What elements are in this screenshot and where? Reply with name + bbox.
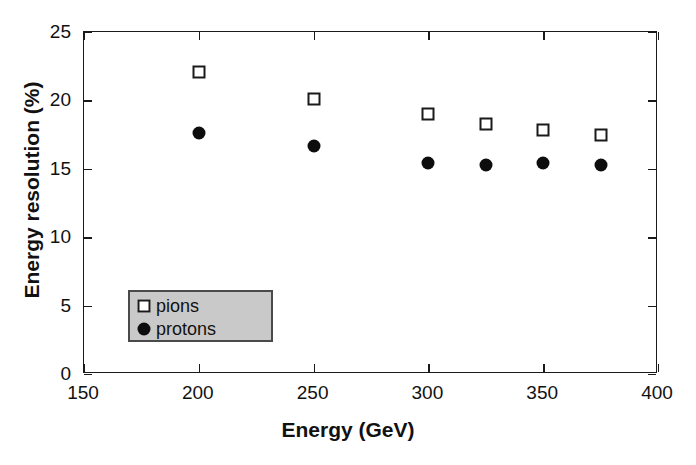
legend-label-protons: protons (156, 320, 216, 338)
x-axis-tick-label: 300 (412, 383, 444, 402)
legend-item-protons: protons (130, 317, 271, 341)
x-axis-tick-label: 250 (297, 383, 329, 402)
filled-circle-marker-icon (138, 323, 151, 336)
data-point-protons (479, 158, 492, 171)
y-axis-tick (648, 374, 656, 375)
y-axis-tick (84, 100, 92, 101)
y-axis-tick (648, 237, 656, 238)
data-point-pions (594, 128, 607, 141)
x-axis-tick (84, 364, 85, 372)
x-axis-tick (658, 364, 659, 372)
legend-swatch-filled-circle-icon (130, 317, 156, 341)
legend-item-pions: pions (130, 294, 271, 318)
y-axis-tick (84, 169, 92, 170)
chart-figure: pions protons Energy (GeV) Energy resolu… (0, 0, 696, 465)
y-axis-tick-label: 5 (23, 295, 71, 314)
x-axis-tick (314, 364, 315, 372)
x-axis-tick (199, 364, 200, 372)
data-point-pions (192, 65, 205, 78)
x-axis-tick (543, 364, 544, 372)
data-point-protons (594, 159, 607, 172)
y-axis-tick-label: 10 (23, 227, 71, 246)
y-axis-tick (648, 169, 656, 170)
x-axis-tick-label: 350 (526, 383, 558, 402)
data-point-pions (422, 108, 435, 121)
y-axis-tick-label: 0 (23, 364, 71, 383)
x-axis-tick (428, 364, 429, 372)
data-point-protons (422, 157, 435, 170)
y-axis-tick (84, 32, 92, 33)
y-axis-tick-label: 25 (23, 22, 71, 41)
x-axis-tick (428, 32, 429, 40)
y-axis-tick (84, 374, 92, 375)
data-point-pions (479, 117, 492, 130)
x-axis-tick (658, 32, 659, 40)
y-axis-tick (84, 306, 92, 307)
data-point-protons (537, 157, 550, 170)
legend-swatch-open-square-icon (130, 294, 156, 318)
chart-legend: pions protons (128, 290, 273, 342)
legend-label-pions: pions (156, 297, 199, 315)
data-point-protons (307, 139, 320, 152)
y-axis-tick-label: 15 (23, 158, 71, 177)
data-point-protons (192, 127, 205, 140)
x-axis-tick-label: 400 (641, 383, 673, 402)
x-axis-tick (199, 32, 200, 40)
y-axis-tick-label: 20 (23, 90, 71, 109)
y-axis-tick (648, 32, 656, 33)
x-axis-tick-label: 150 (67, 383, 99, 402)
data-point-pions (537, 124, 550, 137)
y-axis-tick (84, 237, 92, 238)
x-axis-title: Energy (GeV) (0, 418, 696, 442)
x-axis-tick (543, 32, 544, 40)
open-square-marker-icon (138, 300, 151, 313)
data-point-pions (307, 93, 320, 106)
y-axis-tick (648, 306, 656, 307)
x-axis-tick (314, 32, 315, 40)
x-axis-tick-label: 200 (182, 383, 214, 402)
y-axis-tick (648, 100, 656, 101)
